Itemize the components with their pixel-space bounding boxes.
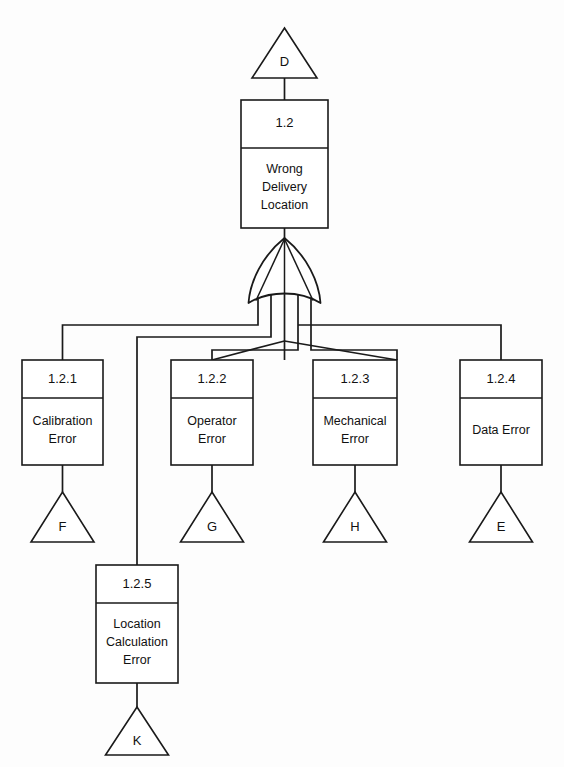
- transfer-in-label: D: [280, 54, 289, 69]
- transfer-out-triangle-f[interactable]: F: [31, 492, 94, 542]
- transfer-out-label-2: G: [207, 519, 217, 534]
- event-desc-top-line-1: Wrong: [266, 162, 303, 176]
- transfer-out-triangle-k[interactable]: K: [106, 707, 169, 755]
- event-desc-5-line-2: Calculation: [106, 635, 168, 649]
- event-box-3[interactable]: 1.2.3 Mechanical Error: [313, 360, 397, 465]
- event-desc-2-line-2: Error: [198, 432, 226, 446]
- transfer-in-triangle-d[interactable]: D: [252, 28, 317, 78]
- event-box-1[interactable]: 1.2.1 Calibration Error: [22, 360, 103, 465]
- event-id-4: 1.2.4: [487, 371, 516, 386]
- event-box-4[interactable]: 1.2.4 Data Error: [460, 360, 542, 465]
- fault-tree-canvas: D 1.2 Wrong Delivery Location: [0, 0, 564, 767]
- event-desc-5-line-1: Location: [113, 617, 160, 631]
- transfer-out-label-5: K: [133, 733, 142, 748]
- event-box-5[interactable]: 1.2.5 Location Calculation Error: [96, 565, 178, 683]
- event-desc-4-line-1: Data Error: [472, 423, 530, 437]
- connector-gate-to-event-4: [298, 325, 501, 360]
- event-box-2[interactable]: 1.2.2 Operator Error: [171, 360, 253, 465]
- transfer-out-label-4: E: [497, 519, 506, 534]
- event-id-1: 1.2.1: [48, 371, 77, 386]
- event-desc-2-line-1: Operator: [187, 414, 236, 428]
- event-id-2: 1.2.2: [198, 371, 227, 386]
- event-box-top[interactable]: 1.2 Wrong Delivery Location: [241, 100, 328, 228]
- event-id-3: 1.2.3: [341, 371, 370, 386]
- fault-tree-diagram: D 1.2 Wrong Delivery Location: [0, 0, 564, 767]
- event-desc-3-line-1: Mechanical: [323, 414, 386, 428]
- event-desc-3-line-2: Error: [341, 432, 369, 446]
- event-desc-top-line-2: Delivery: [262, 180, 308, 194]
- event-desc-1-line-2: Error: [49, 432, 77, 446]
- transfer-out-triangle-h[interactable]: H: [324, 492, 387, 542]
- event-desc-1-line-1: Calibration: [33, 414, 93, 428]
- connector-gate-to-event-1: [63, 312, 259, 360]
- transfer-out-label-1: F: [59, 519, 67, 534]
- event-id-5: 1.2.5: [123, 576, 152, 591]
- event-desc-top-line-3: Location: [261, 198, 308, 212]
- or-gate-1-2[interactable]: [249, 238, 321, 303]
- transfer-out-triangle-e[interactable]: E: [470, 492, 533, 542]
- transfer-out-label-3: H: [350, 519, 359, 534]
- event-id-top: 1.2: [275, 115, 293, 130]
- event-desc-5-line-3: Error: [123, 653, 151, 667]
- transfer-out-triangle-g[interactable]: G: [181, 492, 244, 542]
